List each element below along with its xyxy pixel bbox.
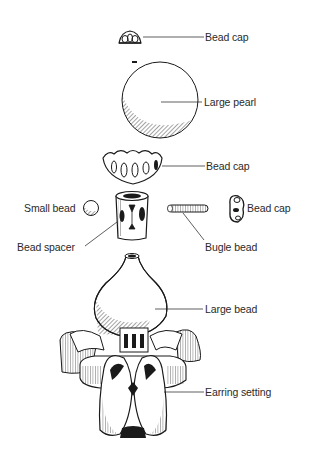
bead-cap-right-illustration: [230, 196, 244, 222]
bead-cap-middle-illustration: [103, 151, 205, 185]
small-bead-illustration: [83, 201, 99, 217]
label-bead-cap-right: Bead cap: [247, 202, 291, 214]
earring-exploded-diagram: Bead cap Large pearl Bead cap Small bead…: [0, 0, 312, 451]
label-bugle-bead: Bugle bead: [205, 241, 257, 253]
large-bead-illustration: [94, 254, 203, 338]
label-large-bead: Large bead: [205, 303, 257, 315]
label-small-bead: Small bead: [24, 202, 76, 214]
earring-setting-illustration: [60, 328, 204, 438]
label-bead-spacer: Bead spacer: [17, 241, 75, 253]
bead-cap-top-illustration: [119, 31, 204, 43]
label-bead-cap-middle: Bead cap: [206, 160, 250, 172]
bead-spacer-illustration: [85, 192, 148, 247]
label-bead-cap-top: Bead cap: [205, 31, 249, 43]
bugle-bead-illustration: [168, 205, 209, 240]
label-large-pearl: Large pearl: [204, 96, 256, 108]
large-pearl-illustration: [120, 61, 202, 140]
label-earring-setting: Earring setting: [205, 386, 271, 398]
diagram-artwork: [0, 0, 312, 451]
